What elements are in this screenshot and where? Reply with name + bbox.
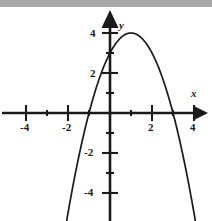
x-tick-label-2: 2: [148, 122, 154, 133]
x-tick-label--2: -2: [62, 122, 71, 133]
y-tick-label--2: -2: [84, 147, 93, 158]
x-axis-arrowhead-icon: [193, 106, 208, 121]
x-axis-label: x: [191, 88, 197, 99]
y-tick-label-2: 2: [90, 68, 96, 79]
y-tick-label--4: -4: [84, 187, 93, 198]
y-tick-label-4: 4: [90, 28, 96, 39]
coordinate-plane: [0, 0, 212, 221]
x-tick-label--4: -4: [20, 122, 29, 133]
x-tick-label-4: 4: [190, 122, 196, 133]
parabola-figure: -4 -2 2 4 4 2 -2 -4 x y: [0, 0, 212, 221]
y-axis-arrowhead-icon: [102, 10, 119, 28]
y-axis-label: y: [119, 20, 124, 31]
